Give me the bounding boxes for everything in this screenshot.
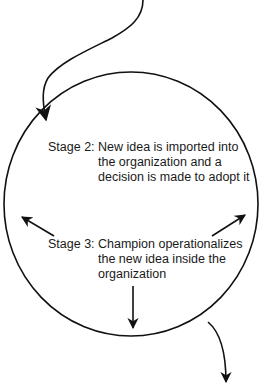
right-arrow (212, 215, 245, 236)
stage-2-line-2: the organization and a (98, 155, 249, 170)
stage-3-line-1: Champion operationalizes (98, 237, 243, 252)
stage-3-line-2: the new idea inside the (98, 252, 243, 267)
stage-2-line-1: New idea is imported into (98, 140, 249, 155)
outgoing-arrow (208, 322, 226, 382)
stage-2-line-3: decision is made to adopt it (98, 170, 249, 185)
process-circle (4, 72, 258, 336)
stage-3-description: Champion operationalizes the new idea in… (98, 237, 243, 282)
incoming-arrow (43, 0, 143, 120)
stage-2-description: New idea is imported into the organizati… (98, 140, 249, 185)
left-arrow (22, 217, 54, 236)
stage-3-label: Stage 3: (48, 237, 95, 252)
diagram-canvas (0, 0, 260, 385)
stage-2-label: Stage 2: (48, 140, 95, 155)
stage-3-line-3: organization (98, 267, 243, 282)
